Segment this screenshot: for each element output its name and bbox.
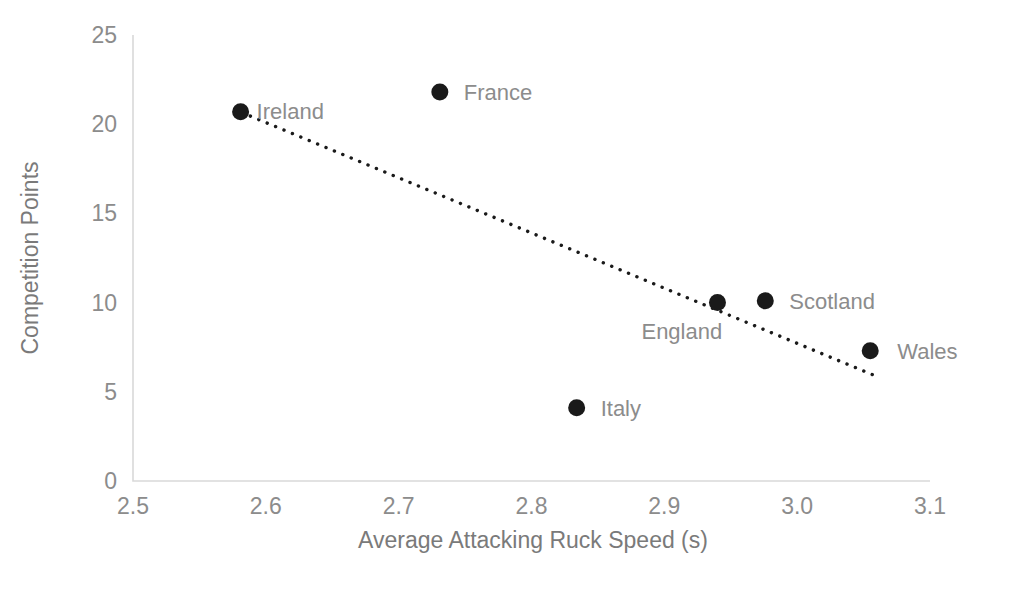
x-axis-tick-label: 3.0 [781,493,813,519]
plot-svg: 0510152025 2.52.62.72.82.93.03.1 Ireland… [0,0,1009,602]
x-axis-tick-label: 2.8 [516,493,548,519]
y-axis-title: Competition Points [17,161,43,354]
x-axis-ticks: 2.52.62.72.82.93.03.1 [117,493,946,519]
trendline-path [242,113,873,375]
data-point: France [431,80,532,105]
x-axis-tick-label: 2.9 [648,493,680,519]
data-point-marker [757,292,774,309]
y-axis-tick-label: 10 [91,290,117,316]
data-point: Italy [568,396,641,421]
data-point-marker [862,342,879,359]
data-point: Scotland [757,289,875,314]
y-axis-tick-label: 20 [91,111,117,137]
data-point-marker [232,103,249,120]
data-point-marker [568,399,585,416]
data-point: Ireland [232,99,324,124]
data-point-label: Wales [897,339,957,364]
data-point-label: Italy [601,396,641,421]
data-point-label: England [641,319,722,344]
x-axis-tick-label: 2.5 [117,493,149,519]
data-point: England [641,294,726,344]
data-point-label: France [464,80,532,105]
y-axis-ticks: 0510152025 [91,22,117,494]
data-points: IrelandFranceItalyEnglandScotlandWales [232,80,957,421]
x-axis-title: Average Attacking Ruck Speed (s) [358,527,708,553]
data-point-label: Scotland [789,289,875,314]
data-point: Wales [862,339,958,364]
x-axis-tick-label: 2.7 [383,493,415,519]
y-axis-tick-label: 15 [91,200,117,226]
y-axis-tick-label: 25 [91,22,117,48]
data-point-label: Ireland [257,99,324,124]
y-axis-tick-label: 5 [104,379,117,405]
scatter-chart: 0510152025 2.52.62.72.82.93.03.1 Ireland… [0,0,1009,602]
data-point-marker [709,294,726,311]
x-axis-tick-label: 3.1 [914,493,946,519]
y-axis-tick-label: 0 [104,468,117,494]
x-axis-tick-label: 2.6 [250,493,282,519]
data-point-marker [431,84,448,101]
trendline [242,113,873,375]
